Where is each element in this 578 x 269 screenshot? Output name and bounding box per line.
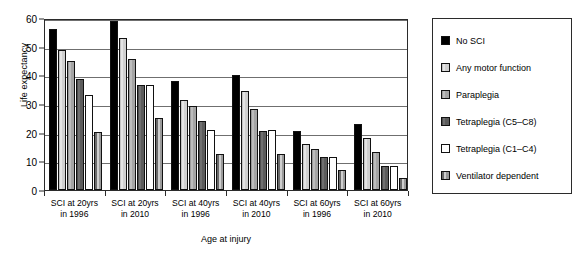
bar[interactable] [329,157,337,190]
x-axis-category-label: SCI at 40yrsin 2010 [226,198,287,232]
bar[interactable] [338,170,346,190]
bar-group [289,20,350,190]
x-axis-category-label-line: SCI at 20yrs [44,198,105,209]
x-axis-title: Age at injury [44,234,408,244]
legend-item[interactable]: Paraplegia [441,81,571,108]
bar[interactable] [363,138,371,190]
bar[interactable] [311,149,319,190]
legend-item-label: Ventilator dependent [456,171,539,181]
legend-item[interactable]: No SCI [441,27,571,54]
y-axis-tick-label: 20 [26,128,37,139]
x-axis-category-label-line: in 2010 [226,209,287,220]
legend-item[interactable]: Tetraplegia (C1–C4) [441,135,571,162]
bar[interactable] [268,130,276,190]
legend-item-label: Tetraplegia (C1–C4) [456,144,537,154]
bar[interactable] [49,29,57,190]
x-axis-category-label-line: in 2010 [105,209,166,220]
bar-groups [45,20,407,190]
bar[interactable] [399,178,407,190]
legend-swatch-icon [441,36,450,45]
bar[interactable] [241,91,249,190]
x-axis-category-label: SCI at 60yrsin 1996 [287,198,348,232]
legend-item[interactable]: Ventilator dependent [441,162,571,189]
plot-area [44,19,408,191]
legend-swatch-icon [441,171,450,180]
x-axis-tick-mark [105,191,106,196]
bar-group [350,20,411,190]
bar-group [228,20,289,190]
legend-item-label: Any motor function [456,63,531,73]
x-axis-tick-mark [165,191,166,196]
y-axis-tick-label: 10 [26,157,37,168]
legend-swatch-icon [441,144,450,153]
bar[interactable] [302,144,310,190]
x-axis-ticks [44,191,408,197]
y-axis-ticks: 0102030405060 [0,0,44,172]
legend-swatch-icon [441,90,450,99]
bar[interactable] [381,166,389,190]
x-axis-category-label-line: SCI at 60yrs [287,198,348,209]
x-axis-category-label-line: SCI at 20yrs [105,198,166,209]
bar[interactable] [207,130,215,190]
x-axis-category-label-line: SCI at 40yrs [165,198,226,209]
legend-item-label: Paraplegia [456,90,499,100]
legend-swatch-icon [441,117,450,126]
x-axis-tick-mark [408,191,409,196]
x-axis-category-label: SCI at 60yrsin 2010 [347,198,408,232]
y-axis-tick-label: 40 [26,71,37,82]
bar[interactable] [293,131,301,190]
x-axis-category-label-line: in 1996 [44,209,105,220]
bar[interactable] [155,118,163,190]
bar[interactable] [189,106,197,190]
bar[interactable] [277,154,285,190]
bar[interactable] [110,21,118,190]
bar[interactable] [372,152,380,190]
bar[interactable] [85,95,93,190]
legend-item-label: Tetraplegia (C5–C8) [456,117,537,127]
x-axis-category-label: SCI at 20yrsin 1996 [44,198,105,232]
y-axis-tick-label: 60 [26,14,37,25]
y-axis-tick-label: 30 [26,100,37,111]
x-axis-tick-mark [347,191,348,196]
bar[interactable] [146,85,154,190]
bar[interactable] [58,50,66,190]
x-axis-category-label: SCI at 20yrsin 2010 [105,198,166,232]
x-axis-category-label-line: in 1996 [165,209,226,220]
bar[interactable] [67,61,75,190]
bar[interactable] [76,79,84,190]
bar[interactable] [216,154,224,190]
legend-item[interactable]: Tetraplegia (C5–C8) [441,108,571,135]
bar[interactable] [354,124,362,190]
bar[interactable] [180,100,188,190]
bar[interactable] [198,121,206,190]
bar-group [45,20,106,190]
legend-swatch-icon [441,63,450,72]
bar-group [106,20,167,190]
y-axis-tick-label: 0 [31,186,37,197]
bar[interactable] [94,132,102,190]
bar[interactable] [259,131,267,190]
y-axis-tick-label: 50 [26,42,37,53]
x-axis-category-label-line: SCI at 60yrs [347,198,408,209]
bar[interactable] [390,166,398,190]
x-axis-labels: SCI at 20yrsin 1996SCI at 20yrsin 2010SC… [44,198,408,232]
bar-group [167,20,228,190]
bar[interactable] [320,157,328,190]
x-axis-category-label-line: in 2010 [347,209,408,220]
legend-item[interactable]: Any motor function [441,54,571,81]
chart-root: Life expectancy 0102030405060 SCI at 20y… [0,0,578,269]
bar[interactable] [171,81,179,190]
x-axis-tick-mark [226,191,227,196]
bar[interactable] [250,109,258,190]
x-axis-category-label-line: SCI at 40yrs [226,198,287,209]
x-axis-category-label: SCI at 40yrsin 1996 [165,198,226,232]
legend-item-label: No SCI [456,36,485,46]
bar[interactable] [119,38,127,190]
bar[interactable] [232,75,240,190]
bar[interactable] [137,85,145,190]
x-axis-category-label-line: in 1996 [287,209,348,220]
x-axis-tick-mark [44,191,45,196]
legend-box: No SCIAny motor functionParaplegiaTetrap… [432,18,572,194]
x-axis-tick-mark [287,191,288,196]
bar[interactable] [128,59,136,190]
